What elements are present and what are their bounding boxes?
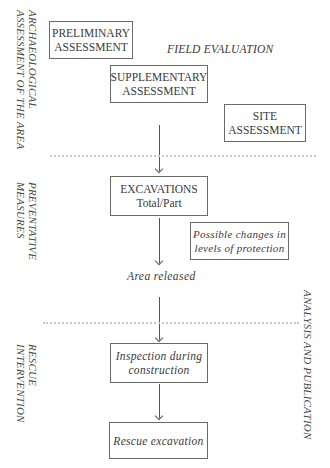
section-label-line: ASSESSMENT OF THE AREA <box>15 10 27 149</box>
section-label-line: INTERVENTION <box>15 344 27 423</box>
box-text: ASSESSMENT <box>54 40 128 54</box>
section-label-analysis-publication: ANALYSIS AND PUBLICATION <box>302 290 314 439</box>
box-text: PRELIMINARY <box>52 26 130 40</box>
box-text: ASSESSMENT <box>228 123 302 137</box>
rescue-excavation-box: Rescue excavation <box>109 422 208 459</box>
arrow-down-icon <box>159 384 160 418</box>
section-label-archaeological-assessment: ARCHAEOLOGICAL ASSESSMENT OF THE AREA <box>15 10 39 149</box>
field-evaluation-label: FIELD EVALUATION <box>167 43 273 55</box>
box-text: construction <box>128 363 189 377</box>
section-divider <box>43 322 299 324</box>
section-label-line: MEASURES <box>15 182 27 239</box>
excavations-box: EXCAVATIONS Total/Part <box>110 176 208 216</box>
box-text: SITE <box>253 109 277 123</box>
site-assessment-box: SITE ASSESSMENT <box>224 104 306 142</box>
box-text: EXCAVATIONS <box>120 182 198 196</box>
arrow-down-icon <box>159 125 160 171</box>
section-label-line: PREVENTATIVE <box>27 182 39 260</box>
box-text: Total/Part <box>136 196 181 210</box>
section-label-line: RESCUE <box>27 344 39 386</box>
section-label-preventative-measures: PREVENTATIVE MEASURES <box>15 182 39 260</box>
possible-changes-box: Possible changes in levels of protection <box>190 222 289 260</box>
section-label-line: ANALYSIS AND PUBLICATION <box>302 290 314 439</box>
box-text: Rescue excavation <box>113 434 203 448</box>
area-released-label: Area released <box>127 270 196 282</box>
supplementary-assessment-box: SUPPLEMENTARY ASSESSMENT <box>110 65 208 103</box>
box-text: ASSESSMENT <box>122 84 196 98</box>
box-text: Inspection during <box>116 349 203 363</box>
arrow-down-icon <box>159 218 160 263</box>
inspection-during-construction-box: Inspection during construction <box>110 343 208 383</box>
section-divider <box>50 155 316 157</box>
box-text: levels of protection <box>195 241 285 255</box>
preliminary-assessment-box: PRELIMINARY ASSESSMENT <box>49 21 133 59</box>
arrow-down-icon <box>159 297 160 340</box>
box-text: Possible changes in <box>193 227 286 241</box>
section-label-line: ARCHAEOLOGICAL <box>27 10 39 109</box>
section-label-rescue-intervention: RESCUE INTERVENTION <box>15 344 39 423</box>
box-text: SUPPLEMENTARY <box>111 70 208 84</box>
